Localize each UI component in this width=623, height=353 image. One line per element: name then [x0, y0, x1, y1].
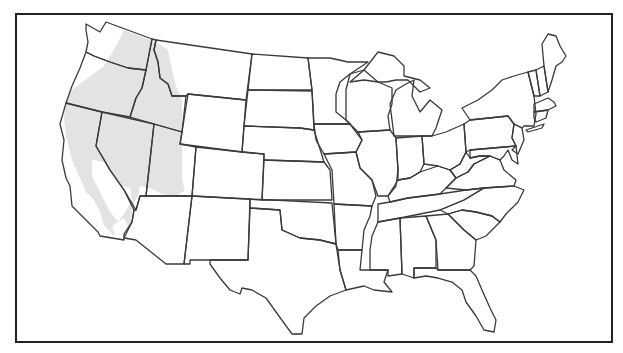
- state-louisiana: [338, 250, 392, 292]
- state-nebraska: [242, 126, 324, 162]
- state-minnesota: [308, 58, 368, 124]
- state-oklahoma: [250, 199, 336, 244]
- state-south-carolina: [448, 210, 500, 240]
- state-alabama: [400, 216, 436, 278]
- state-georgia: [426, 214, 476, 270]
- state-texas: [210, 208, 346, 334]
- long-island: [526, 124, 544, 132]
- state-arkansas: [334, 204, 372, 250]
- state-illinois: [356, 130, 398, 196]
- state-north-carolina: [440, 186, 524, 222]
- state-mississippi: [370, 218, 402, 276]
- state-new-mexico: [184, 196, 250, 264]
- state-maryland-delaware: [470, 146, 518, 164]
- state-colorado: [192, 147, 264, 200]
- state-indiana: [396, 136, 424, 180]
- state-tennessee: [378, 188, 484, 222]
- state-michigan-upper: [350, 52, 430, 92]
- state-new-york: [462, 72, 536, 128]
- state-south-dakota: [244, 90, 314, 130]
- state-florida: [414, 268, 496, 332]
- state-ohio: [422, 124, 466, 170]
- us-map-svg: [0, 0, 623, 353]
- us-map-figure: [0, 0, 623, 353]
- state-north-dakota: [248, 54, 312, 90]
- state-maine: [542, 34, 566, 92]
- state-wyoming: [180, 94, 246, 152]
- state-kansas: [262, 160, 332, 200]
